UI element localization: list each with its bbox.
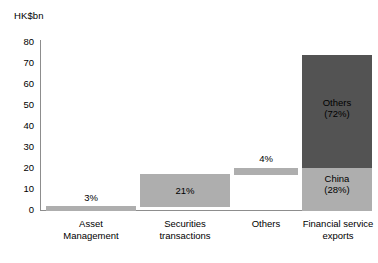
y-tick-70: 70	[8, 58, 34, 68]
x-label-financial-service-exports: Financial service exports	[296, 218, 378, 241]
x-label-securities-transactions-line1: Securities	[140, 218, 230, 230]
y-tick-0: 0	[8, 205, 34, 215]
y-axis-line	[40, 40, 41, 211]
x-label-asset-management-line2: Management	[46, 230, 136, 242]
y-tick-60: 60	[8, 79, 34, 89]
y-tick-50: 50	[8, 100, 34, 110]
x-label-asset-management: Asset Management	[46, 218, 136, 241]
segment-label-others-name: Others	[302, 97, 372, 109]
x-label-asset-management-line1: Asset	[46, 218, 136, 230]
y-tick-10: 10	[8, 184, 34, 194]
x-label-financial-service-exports-line2: exports	[296, 230, 378, 242]
y-tick-40: 40	[8, 121, 34, 131]
x-label-securities-transactions: Securities transactions	[140, 218, 230, 241]
y-tick-20: 20	[8, 163, 34, 173]
x-label-financial-service-exports-line1: Financial service	[296, 218, 378, 230]
bar-asset-management	[46, 206, 136, 211]
plot-area: 3% 21% 4% Others (72%) China (28%)	[40, 40, 335, 211]
segment-label-others-share: (72%)	[302, 108, 372, 120]
x-label-securities-transactions-line2: transactions	[140, 230, 230, 242]
bar-label-securities-transactions: 21%	[140, 185, 230, 196]
x-label-others-line1: Others	[234, 218, 298, 230]
y-axis-unit-label: HK$bn	[14, 10, 44, 21]
bar-label-others: 4%	[234, 153, 298, 164]
segment-label-china-share: (28%)	[302, 184, 372, 196]
segment-label-china-name: China	[302, 173, 372, 185]
x-label-others: Others	[234, 218, 298, 230]
y-tick-30: 30	[8, 142, 34, 152]
y-tick-80: 80	[8, 37, 34, 47]
bar-label-asset-management: 3%	[46, 192, 136, 203]
bar-others	[234, 168, 298, 175]
